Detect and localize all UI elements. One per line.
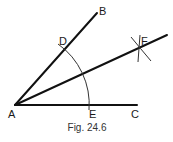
label-a: A bbox=[8, 108, 16, 120]
figure-caption: Fig. 24.6 bbox=[68, 122, 107, 133]
label-c: C bbox=[131, 108, 139, 120]
angle-bisector-diagram: B D F A E C Fig. 24.6 bbox=[0, 0, 173, 142]
label-b: B bbox=[99, 5, 106, 17]
label-e: E bbox=[89, 108, 96, 120]
label-f: F bbox=[141, 35, 148, 47]
label-d: D bbox=[59, 35, 67, 47]
ray-ab bbox=[15, 13, 97, 105]
